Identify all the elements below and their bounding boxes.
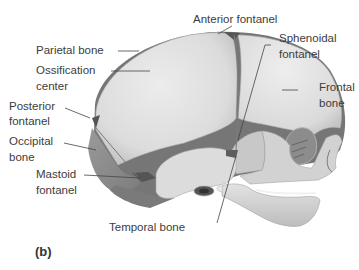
fetal-skull-figure: Anterior fontanel Parietal bone Ossifica…	[0, 0, 359, 270]
label-occipital-bone-line1: Occipital	[9, 135, 53, 148]
label-parietal-bone: Parietal bone	[36, 44, 104, 57]
label-posterior-fontanel-line1: Posterior	[9, 100, 55, 113]
label-frontal-bone-line2: bone	[319, 97, 345, 110]
label-posterior-fontanel-line2: fontanel	[9, 115, 50, 128]
mandible-shape	[222, 184, 320, 226]
label-anterior-fontanel: Anterior fontanel	[193, 13, 277, 26]
label-ossification-center-line2: center	[36, 80, 68, 93]
label-mastoid-fontanel-line1: Mastoid	[36, 168, 76, 181]
label-sphenoidal-fontanel-line2: fontanel	[279, 48, 320, 61]
label-occipital-bone-line2: bone	[9, 151, 35, 164]
label-temporal-bone: Temporal bone	[109, 221, 185, 234]
panel-label: (b)	[35, 244, 52, 259]
label-mastoid-fontanel-line2: fontanel	[36, 184, 77, 197]
label-sphenoidal-fontanel-line1: Sphenoidal	[279, 32, 337, 45]
label-ossification-center-line1: Ossification	[36, 64, 95, 77]
label-frontal-bone-line1: Frontal	[319, 81, 355, 94]
